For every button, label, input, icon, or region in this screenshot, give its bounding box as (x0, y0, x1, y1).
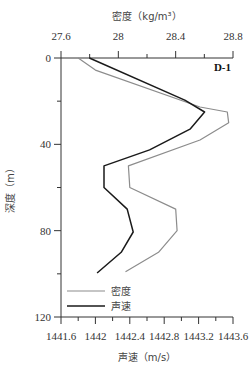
legend-label: 声速 (111, 300, 131, 312)
bottom-tick-label: 1443.6 (218, 330, 249, 342)
bottom-tick-label: 1442 (84, 330, 106, 342)
panel-label: D-1 (214, 61, 231, 73)
bottom-tick-label: 1443.2 (183, 330, 213, 342)
bottom-axis-title: 声速（m/s） (118, 351, 176, 363)
series-line-density (78, 58, 229, 272)
legend-label: 密度 (111, 285, 131, 297)
top-tick-label: 28.8 (223, 30, 243, 42)
top-tick-label: 28.4 (166, 30, 186, 42)
y-tick-label: 0 (46, 52, 52, 64)
top-tick-label: 28 (113, 30, 125, 42)
top-tick-label: 27.6 (51, 30, 71, 42)
bottom-tick-label: 1441.6 (46, 330, 77, 342)
bottom-tick-label: 1442.8 (149, 330, 180, 342)
y-tick-label: 80 (40, 225, 52, 237)
y-tick-label: 120 (35, 311, 52, 323)
y-axis-title: 深度（m） (4, 163, 16, 213)
top-axis-title: 密度（kg/m³） (112, 10, 181, 22)
bottom-tick-label: 1442.4 (115, 330, 146, 342)
y-tick-label: 40 (40, 138, 52, 150)
series-line-sound-speed (89, 58, 204, 273)
depth-profile-chart: 27.62828.428.8密度（kg/m³）1441.614421442.41… (0, 0, 252, 370)
